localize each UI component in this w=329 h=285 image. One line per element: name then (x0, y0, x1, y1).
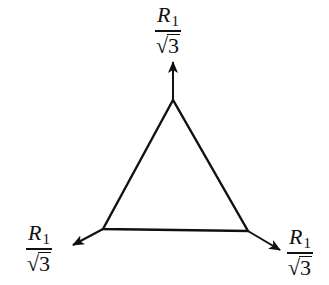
label-right: R1 √3 (287, 226, 313, 279)
label-top: R1 √3 (155, 4, 181, 57)
arrow-left (73, 229, 103, 245)
label-right-denominator: √3 (288, 254, 312, 279)
label-left-denominator: √3 (27, 250, 51, 275)
triangle (103, 100, 248, 231)
label-right-numerator: R1 (287, 226, 313, 252)
label-left: R1 √3 (26, 222, 52, 275)
label-top-numerator: R1 (155, 4, 181, 30)
arrow-right (248, 231, 280, 250)
label-top-denominator: √3 (156, 32, 180, 57)
label-left-numerator: R1 (26, 222, 52, 248)
